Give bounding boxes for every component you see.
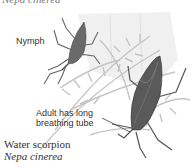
field-guide-illustration: Nepa cinerea	[0, 0, 194, 168]
scientific-name: Nepa cinerea	[4, 150, 71, 162]
adult-label-line2: breathing tube	[36, 118, 94, 128]
species-caption: Water scorpion Nepa cinerea	[4, 138, 71, 162]
breathing-tube	[102, 118, 130, 132]
water-background-shape	[78, 12, 178, 90]
adult-label-line1: Adult has long	[36, 108, 94, 118]
common-name: Water scorpion	[4, 138, 71, 150]
nymph-label: Nymph	[16, 36, 45, 46]
adult-label: Adult has long breathing tube	[36, 108, 94, 128]
